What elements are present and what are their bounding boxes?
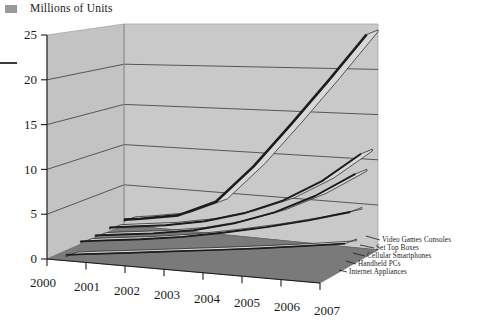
y-axis-ticks <box>41 35 47 259</box>
y-tick-label-10: 10 <box>11 162 37 178</box>
x-tick-label-2004: 2004 <box>194 291 220 307</box>
x-tick-label-2001: 2001 <box>74 279 100 295</box>
x-tick-label-2000: 2000 <box>30 275 56 291</box>
x-tick-label-2005: 2005 <box>234 295 260 311</box>
y-tick-label-0: 0 <box>11 251 37 267</box>
legend-item-internet-appliances: Internet Appliances <box>349 268 407 276</box>
y-tick-label-20: 20 <box>11 72 37 88</box>
y-tick-label-15: 15 <box>11 117 37 133</box>
legend-item-video-games-consoles: Video Games Consoles <box>382 236 451 244</box>
y-tick-label-25: 25 <box>11 27 37 43</box>
x-tick-label-2006: 2006 <box>274 299 300 315</box>
plot-area <box>0 0 483 323</box>
x-tick-label-2003: 2003 <box>154 287 180 303</box>
legend-item-set-top-boxes: Set Top Boxes <box>376 244 419 252</box>
chart-3d-line: Millions of Units <box>0 0 483 323</box>
legend-item-cellular-smartphones: Cellular Smartphones <box>367 252 431 260</box>
left-wall <box>47 24 124 259</box>
x-tick-label-2002: 2002 <box>114 283 140 299</box>
legend-item-handheld-pcs: Handheld PCs <box>358 260 401 268</box>
x-tick-label-2007: 2007 <box>314 303 340 319</box>
y-tick-label-5: 5 <box>11 206 37 222</box>
